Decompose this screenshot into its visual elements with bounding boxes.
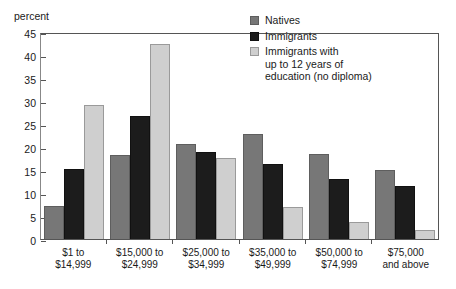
x-axis-tick-mark <box>106 239 107 244</box>
bar <box>110 155 130 239</box>
x-axis-category-label: $35,000 to$49,999 <box>240 247 307 271</box>
bar <box>216 158 236 239</box>
bar <box>243 134 263 239</box>
x-axis-category-label-line: $1 to <box>40 247 107 259</box>
x-axis-category-labels: $1 to$14,999$15,000 to$24,999$25,000 to$… <box>40 247 439 271</box>
y-axis-tick-label: 15 <box>24 167 41 178</box>
bar <box>329 179 349 239</box>
y-axis-tick-label: 25 <box>24 121 41 132</box>
y-axis-tick-label: 30 <box>24 98 41 109</box>
bar <box>176 144 196 239</box>
x-axis-tick-mark <box>305 239 306 244</box>
legend-color-swatch <box>250 16 259 25</box>
x-axis-category-label-line: $75,000 <box>373 247 440 259</box>
bar <box>283 207 303 239</box>
x-axis-category-label-line: $49,999 <box>240 259 307 271</box>
bar-group <box>41 34 107 239</box>
x-axis-category-label: $1 to$14,999 <box>40 247 107 271</box>
legend: NativesImmigrantsImmigrants with up to 1… <box>250 14 372 83</box>
x-axis-tick-mark <box>172 239 173 244</box>
x-axis-category-label-line: $34,999 <box>173 259 240 271</box>
bar-group <box>372 34 438 239</box>
x-axis-category-label-line: $74,999 <box>306 259 373 271</box>
x-axis-category-label-line: $35,000 to <box>240 247 307 259</box>
x-axis-category-label-line: $14,999 <box>40 259 107 271</box>
y-axis-tick-label: 5 <box>30 213 41 224</box>
bar <box>130 116 150 239</box>
bar-group <box>173 34 239 239</box>
y-axis-tick-label: 45 <box>24 29 41 40</box>
bar <box>263 164 283 239</box>
legend-item: Natives <box>250 14 372 27</box>
y-axis-tick-label: 20 <box>24 144 41 155</box>
x-axis-category-label: $50,000 to$74,999 <box>306 247 373 271</box>
bar <box>395 186 415 239</box>
legend-color-swatch <box>250 32 259 41</box>
legend-item: Immigrants <box>250 30 372 43</box>
x-axis-category-label-line: $50,000 to <box>306 247 373 259</box>
bar <box>84 105 104 239</box>
x-axis-category-label-line: $25,000 to <box>173 247 240 259</box>
bar <box>196 152 216 239</box>
bar <box>44 206 64 239</box>
bars-container <box>41 34 438 239</box>
y-axis-title: percent <box>14 10 49 22</box>
legend-color-swatch <box>250 47 259 56</box>
x-axis-tick-mark <box>239 239 240 244</box>
y-axis-tick-mark <box>41 241 46 242</box>
bar <box>349 222 369 239</box>
legend-item-label: Immigrants <box>265 30 317 43</box>
x-axis-category-label: $25,000 to$34,999 <box>173 247 240 271</box>
bar-chart: percent 454035302520151050 $1 to$14,999$… <box>0 0 456 289</box>
x-axis-category-label-line: $15,000 to <box>107 247 174 259</box>
bar <box>150 44 170 240</box>
bar <box>64 169 84 239</box>
x-axis-category-label: $15,000 to$24,999 <box>107 247 174 271</box>
y-axis-tick-label: 0 <box>30 236 41 247</box>
bar <box>309 154 329 239</box>
y-axis-tick-label: 35 <box>24 75 41 86</box>
legend-item-label: Immigrants with up to 12 years of educat… <box>265 45 372 83</box>
plot-area: 454035302520151050 <box>40 33 439 240</box>
x-axis-category-label-line: and above <box>373 259 440 271</box>
bar-group <box>107 34 173 239</box>
legend-item-label: Natives <box>265 14 300 27</box>
bar <box>415 230 435 239</box>
y-axis-tick-label: 10 <box>24 190 41 201</box>
x-axis-tick-mark <box>371 239 372 244</box>
x-axis-category-label: $75,000and above <box>373 247 440 271</box>
y-axis-tick-label: 40 <box>24 52 41 63</box>
x-axis-category-label-line: $24,999 <box>107 259 174 271</box>
legend-item: Immigrants with up to 12 years of educat… <box>250 45 372 83</box>
bar <box>375 170 395 239</box>
